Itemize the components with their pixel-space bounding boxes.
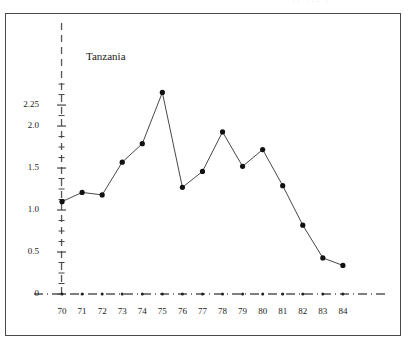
x-axis (34, 293, 387, 296)
y-tick-label: 2.25 (12, 99, 39, 109)
y-tick-label: 0 (12, 288, 39, 298)
data-point (160, 90, 165, 95)
data-point (120, 160, 125, 165)
y-tick-label: 1.5 (12, 162, 39, 172)
data-point (280, 183, 285, 188)
data-point (340, 263, 345, 268)
y-tick-label: 1.0 (12, 204, 39, 214)
data-point (59, 199, 64, 204)
data-point (180, 185, 185, 190)
data-point (260, 147, 265, 152)
line-chart-canvas (0, 0, 408, 344)
chart-page: ·· ··· · Tanzania 00.51.01.52.02.25 7071… (0, 0, 408, 344)
data-point (100, 192, 105, 197)
y-tick-label: 0.5 (12, 246, 39, 256)
data-point (140, 141, 145, 146)
series-annotation-label: Tanzania (86, 50, 126, 62)
data-point (80, 190, 85, 195)
data-series-tanzania (59, 90, 345, 268)
data-point (220, 129, 225, 134)
data-point (320, 255, 325, 260)
data-point (200, 169, 205, 174)
data-point (240, 164, 245, 169)
y-axis (57, 18, 66, 294)
data-point (300, 223, 305, 228)
x-tick-label: 84 (331, 306, 355, 316)
y-tick-label: 2.0 (12, 120, 39, 130)
